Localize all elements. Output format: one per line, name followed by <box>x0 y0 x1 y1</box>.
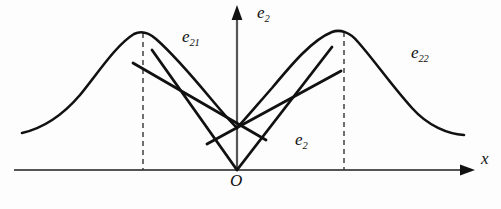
label-mid-e2: e2 <box>295 131 308 152</box>
x-axis <box>14 165 475 176</box>
label-e22: e22 <box>411 44 428 65</box>
inner-right-segment <box>207 71 341 144</box>
figure-canvas: e21 e22 e2 e2 O x <box>0 0 501 209</box>
right-bell-curve <box>237 31 464 135</box>
left-bell-curve <box>22 32 237 133</box>
label-x-axis: x <box>481 150 489 167</box>
label-y-axis-e2: e2 <box>257 4 270 25</box>
inner-left-segment <box>133 63 266 140</box>
x-axis-arrowhead <box>460 165 475 176</box>
y-axis-arrowhead <box>232 5 243 20</box>
label-e21: e21 <box>182 28 199 49</box>
figure-svg <box>0 0 501 209</box>
label-origin: O <box>230 172 242 189</box>
y-axis <box>232 5 243 170</box>
